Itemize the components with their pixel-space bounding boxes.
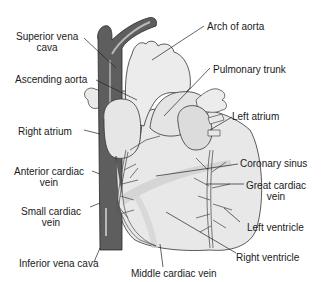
label-line-2: cava bbox=[16, 42, 78, 53]
label-line-1: Small cardiac bbox=[21, 206, 81, 217]
label-arch-of-aorta: Arch of aorta bbox=[207, 21, 264, 32]
label-right-ventricle: Right ventricle bbox=[236, 252, 299, 263]
label-line-1: Anterior cardiac bbox=[14, 166, 84, 177]
label-line-2: vein bbox=[246, 191, 306, 202]
label-left-ventricle: Left ventricle bbox=[247, 222, 304, 233]
label-line-1: Great cardiac bbox=[246, 180, 306, 191]
label-left-atrium: Left atrium bbox=[232, 111, 279, 122]
label-ascending-aorta: Ascending aorta bbox=[15, 74, 87, 85]
label-line-2: vein bbox=[21, 217, 81, 228]
label-line-2: vein bbox=[14, 177, 84, 188]
label-right-atrium: Right atrium bbox=[18, 126, 72, 137]
heart-diagram: Superior vena cava Ascending aorta Right… bbox=[0, 0, 321, 282]
label-inferior-vena-cava: Inferior vena cava bbox=[19, 258, 99, 269]
label-coronary-sinus: Coronary sinus bbox=[240, 158, 307, 169]
label-small-cardiac-vein: Small cardiac vein bbox=[21, 206, 81, 228]
label-line-1: Superior vena bbox=[16, 31, 78, 42]
label-pulmonary-trunk: Pulmonary trunk bbox=[213, 64, 286, 75]
label-anterior-cardiac-vein: Anterior cardiac vein bbox=[14, 166, 84, 188]
label-great-cardiac-vein: Great cardiac vein bbox=[246, 180, 306, 202]
label-middle-cardiac-vein: Middle cardiac vein bbox=[131, 268, 217, 279]
right-atrium-front bbox=[104, 99, 141, 158]
label-superior-vena-cava: Superior vena cava bbox=[16, 31, 78, 53]
